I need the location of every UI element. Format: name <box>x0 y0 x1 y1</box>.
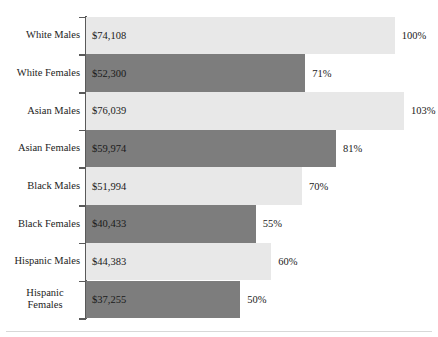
chart-row: White Females$52,30071% <box>0 54 438 92</box>
bar <box>86 17 395 55</box>
horizontal-bar-chart: White Males$74,108100%White Females$52,3… <box>0 0 438 337</box>
page-bottom-rule <box>6 331 432 332</box>
axis-tick <box>79 281 86 283</box>
bar <box>86 281 240 319</box>
chart-row: Asian Males$76,039103% <box>0 92 438 130</box>
category-label: White Females <box>8 54 86 92</box>
chart-row: Hispanic Females$37,25550% <box>0 281 438 319</box>
bar-percent-label: 55% <box>263 205 282 243</box>
bar-percent-label: 100% <box>402 17 427 55</box>
axis-tick <box>79 130 86 132</box>
chart-row: Black Males$51,99470% <box>0 167 438 205</box>
bar-percent-label: 71% <box>312 54 331 92</box>
bar-percent-label: 103% <box>411 92 436 130</box>
bar <box>86 92 404 130</box>
axis-tick <box>79 167 86 169</box>
axis-tick <box>79 92 86 94</box>
bar-percent-label: 81% <box>343 130 362 168</box>
axis-tick <box>79 318 86 320</box>
bar <box>86 130 336 168</box>
bar-percent-label: 60% <box>278 243 297 281</box>
bar-percent-label: 70% <box>309 167 328 205</box>
bar <box>86 243 271 281</box>
bar <box>86 205 256 243</box>
category-label: Asian Females <box>8 130 86 168</box>
chart-row: Black Females$40,43355% <box>0 205 438 243</box>
bar <box>86 54 305 92</box>
axis-tick <box>79 17 86 19</box>
bar-percent-label: 50% <box>247 281 266 319</box>
chart-row: White Males$74,108100% <box>0 17 438 55</box>
category-label: Black Males <box>8 167 86 205</box>
chart-row: Asian Females$59,97481% <box>0 130 438 168</box>
axis-tick <box>79 243 86 245</box>
bar <box>86 167 302 205</box>
axis-tick <box>79 205 86 207</box>
category-label: Black Females <box>8 205 86 243</box>
category-label: White Males <box>8 17 86 55</box>
axis-tick <box>79 54 86 56</box>
category-label: Asian Males <box>8 92 86 130</box>
chart-row: Hispanic Males$44,38360% <box>0 243 438 281</box>
category-label: Hispanic Females <box>8 281 86 319</box>
category-label: Hispanic Males <box>8 243 86 281</box>
